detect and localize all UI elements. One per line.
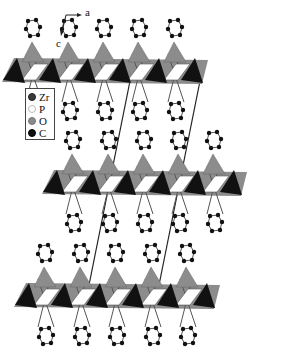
legend-item-p: P (28, 103, 54, 115)
carbon-atom (174, 146, 178, 150)
carbon-atom (180, 244, 184, 248)
carbon-atom (137, 131, 141, 135)
phosphate-tetrahedron (141, 267, 163, 287)
carbon-atom (154, 326, 158, 330)
carbon-atom (47, 326, 51, 330)
carbon-atom (99, 34, 103, 38)
carbon-atom (180, 130, 184, 134)
inorganic-layers (2, 18, 247, 346)
carbon-atom (51, 333, 55, 337)
carbon-atom (178, 33, 182, 37)
carbon-atom (167, 110, 171, 114)
carbon-atom (83, 326, 87, 330)
carbon-atom (86, 250, 90, 254)
carbon-atom (143, 116, 147, 120)
carbon-atom (110, 130, 114, 134)
carbon-atom (105, 18, 109, 22)
carbon-atom (26, 19, 30, 23)
carbon-atom (49, 341, 53, 345)
carbon-atom (78, 137, 82, 141)
carbon-atom (72, 252, 76, 256)
o-dot-icon (28, 117, 36, 125)
carbon-atom (188, 243, 192, 247)
carbon-atom (138, 214, 142, 218)
carbon-atom (166, 27, 170, 31)
carbon-atom (189, 326, 193, 330)
phosphate-tetrahedron (22, 42, 44, 62)
carbon-atom (122, 333, 126, 337)
phosphate-tetrahedron (105, 267, 127, 287)
phosphate-tetrahedron (93, 42, 115, 62)
carbon-atom (115, 220, 119, 224)
carbon-atom (65, 222, 69, 226)
c-dot-icon (28, 129, 36, 137)
carbon-atom (112, 145, 116, 149)
carbon-atom (130, 27, 134, 31)
carbon-atom (87, 333, 91, 337)
carbon-atom (148, 228, 152, 232)
carbon-atom (66, 131, 70, 135)
carbon-atom (74, 25, 78, 29)
carbon-atom (147, 145, 151, 149)
carbon-atom (64, 34, 68, 38)
carbon-atom (149, 137, 153, 141)
carbon-atom (103, 214, 107, 218)
carbon-atom (131, 110, 135, 114)
carbon-atom (71, 101, 75, 105)
carbon-atom (108, 335, 112, 339)
carbon-atom (121, 250, 125, 254)
carbon-atom (38, 25, 42, 29)
carbon-atom (104, 146, 108, 150)
carbon-atom (216, 213, 220, 217)
carbon-atom (177, 101, 181, 105)
carbon-atom (172, 131, 176, 135)
carbon-atom (175, 229, 179, 233)
carbon-atom (85, 341, 89, 345)
carbon-atom (72, 33, 76, 37)
carbon-atom (147, 259, 151, 263)
carbon-atom (36, 33, 40, 37)
carbon-atom (41, 342, 45, 346)
phosphate-tetrahedron (62, 154, 84, 174)
carbon-atom (135, 117, 139, 121)
zr-dot-icon (28, 93, 36, 101)
carbon-atom (170, 139, 174, 143)
carbon-atom (107, 252, 111, 256)
carbon-atom (38, 244, 42, 248)
carbon-atom (171, 117, 175, 121)
carbon-atom (95, 27, 99, 31)
carbon-atom (158, 333, 162, 337)
carbon-atom (183, 342, 187, 346)
carbon-atom (181, 213, 185, 217)
carbon-atom (182, 259, 186, 263)
a-arrowhead-icon (77, 13, 82, 17)
carbon-atom (70, 18, 74, 22)
carbon-atom (39, 327, 43, 331)
carbon-atom (183, 228, 187, 232)
carbon-atom (140, 229, 144, 233)
crystal-structure-diagram: a c Zr P O C (0, 0, 282, 352)
carbon-atom (135, 139, 139, 143)
structure-svg (0, 0, 282, 352)
legend-label-c: C (39, 127, 46, 139)
carbon-atom (185, 220, 189, 224)
carbon-atom (219, 137, 223, 141)
carbon-atom (77, 342, 81, 346)
phosphate-tetrahedron (58, 42, 80, 62)
carbon-atom (96, 110, 100, 114)
legend-item-zr: Zr (28, 91, 54, 103)
carbon-atom (145, 244, 149, 248)
c-axis-label: c (56, 37, 61, 49)
a-axis-label: a (85, 6, 90, 18)
carbon-atom (141, 101, 145, 105)
carbon-atom (68, 146, 72, 150)
carbon-atom (193, 333, 197, 337)
carbon-atom (114, 137, 118, 141)
carbon-atom (36, 252, 40, 256)
carbon-atom (218, 228, 222, 232)
carbon-atom (117, 243, 121, 247)
legend-label-zr: Zr (39, 91, 49, 103)
carbon-atom (97, 19, 101, 23)
carbon-atom (106, 101, 110, 105)
carbon-atom (181, 108, 185, 112)
